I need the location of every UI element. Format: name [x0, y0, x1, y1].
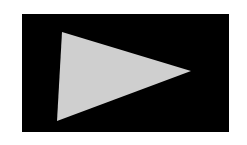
play-triangle-icon — [57, 32, 191, 121]
triangle-graphic — [0, 0, 247, 145]
